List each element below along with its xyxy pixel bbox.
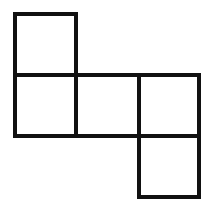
square-middle-left [13, 73, 78, 138]
square-top-left [13, 12, 78, 77]
square-bottom-right [137, 134, 201, 199]
square-middle-center [74, 73, 141, 138]
square-middle-right [137, 73, 201, 138]
